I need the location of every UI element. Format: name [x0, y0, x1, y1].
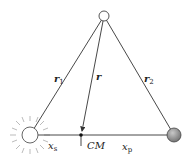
star-icon: [22, 127, 38, 143]
label-r: r: [96, 71, 102, 82]
label-r2: r2: [144, 73, 154, 86]
label-r1: r1: [54, 73, 64, 86]
label-xp: xp: [122, 141, 133, 154]
r2-line: [104, 16, 174, 135]
label-xs: xs: [48, 140, 58, 153]
test-mass-icon: [99, 11, 109, 21]
planet-icon: [167, 128, 181, 142]
label-cm: CM: [87, 140, 106, 151]
diagram-canvas: r1 r r2 xs CM xp: [0, 0, 196, 164]
cm-point: [79, 133, 83, 137]
